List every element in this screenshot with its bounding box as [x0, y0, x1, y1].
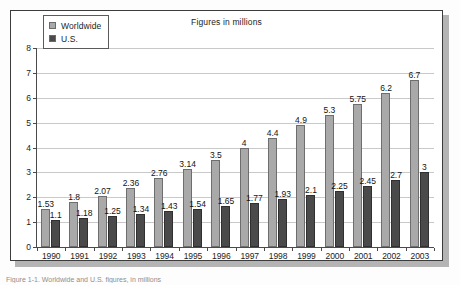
y-axis-tick-label: 2 [26, 192, 31, 202]
bar-us[interactable]: 1.1 [51, 220, 60, 247]
y-axis-tick-mark [33, 197, 36, 198]
bar-value-label: 2.36 [123, 178, 140, 188]
y-axis-tick-mark [33, 172, 36, 173]
bar-group: 4.41.93 [264, 48, 292, 247]
bar-value-label: 2.7 [390, 170, 402, 180]
y-axis-tick-mark [33, 48, 36, 49]
x-axis-tick-label: 1991 [65, 251, 93, 261]
bar-value-label: 3.5 [210, 150, 222, 160]
bar-value-label: 2.07 [94, 186, 111, 196]
bar-value-label: 3 [422, 162, 427, 172]
chart-legend: Worldwide U.S. [43, 15, 109, 49]
bar-group: 6.22.7 [377, 48, 405, 247]
bar-group: 2.361.34 [122, 48, 150, 247]
bar-group: 2.071.25 [94, 48, 122, 247]
bar-worldwide[interactable]: 1.53 [41, 209, 50, 247]
bar-group: 41.77 [236, 48, 264, 247]
y-axis-tick-label: 5 [26, 118, 31, 128]
bar-value-label: 2.45 [360, 176, 377, 186]
bar-group: 3.141.54 [179, 48, 207, 247]
x-axis-tick-label: 1996 [207, 251, 235, 261]
screenshot-canvas: Figures in millions Worldwide U.S. 87654… [0, 0, 460, 285]
bar-value-label: 1.1 [50, 210, 62, 220]
x-axis-tick-label: 1992 [94, 251, 122, 261]
bar-us[interactable]: 1.77 [250, 203, 259, 247]
y-axis-tick-label: 3 [26, 167, 31, 177]
bar-worldwide[interactable]: 6.2 [381, 93, 390, 247]
y-axis-tick-mark [33, 148, 36, 149]
x-axis-tick-mark [434, 248, 435, 251]
bar-us[interactable]: 1.65 [221, 206, 230, 247]
bar-value-label: 1.65 [218, 196, 235, 206]
bar-us[interactable]: 1.93 [278, 199, 287, 247]
y-axis-tick-label: 6 [26, 93, 31, 103]
bar-group: 1.81.18 [65, 48, 93, 247]
bar-value-label: 1.18 [76, 208, 93, 218]
bar-us[interactable]: 1.34 [136, 214, 145, 247]
bar-value-label: 1.34 [133, 204, 150, 214]
bar-worldwide[interactable]: 6.7 [410, 80, 419, 247]
bar-group: 6.73 [406, 48, 434, 247]
x-axis-tick-label: 1999 [292, 251, 320, 261]
bar-value-label: 3.14 [179, 159, 196, 169]
bar-value-label: 1.77 [246, 193, 263, 203]
bar-value-label: 1.54 [189, 199, 206, 209]
y-axis-tick-mark [33, 222, 36, 223]
bar-us[interactable]: 1.18 [79, 218, 88, 247]
bar-value-label: 2.1 [305, 185, 317, 195]
chart-figure-frame: Figures in millions Worldwide U.S. 87654… [10, 10, 443, 261]
bar-group: 5.32.25 [321, 48, 349, 247]
x-axis-tick-label: 2003 [406, 251, 434, 261]
x-axis-tick-label: 1995 [179, 251, 207, 261]
bar-value-label: 6.7 [408, 70, 420, 80]
bar-us[interactable]: 2.7 [391, 180, 400, 247]
legend-label-worldwide: Worldwide [61, 21, 101, 31]
bar-value-label: 1.53 [38, 199, 55, 209]
y-axis-tick-mark [33, 123, 36, 124]
bar-group: 5.752.45 [349, 48, 377, 247]
bar-us[interactable]: 1.43 [164, 211, 173, 247]
legend-item-worldwide[interactable]: Worldwide [49, 19, 101, 32]
bar-us[interactable]: 2.45 [363, 186, 372, 247]
bar-worldwide[interactable]: 2.07 [98, 196, 107, 247]
bar-value-label: 1.25 [104, 206, 121, 216]
legend-item-us[interactable]: U.S. [49, 32, 101, 45]
bar-value-label: 1.93 [274, 189, 291, 199]
bar-us[interactable]: 1.25 [108, 216, 117, 247]
bar-value-label: 4 [242, 138, 247, 148]
x-axis-tick-label: 1990 [37, 251, 65, 261]
y-axis-tick-mark [33, 73, 36, 74]
bar-worldwide[interactable]: 2.76 [154, 178, 163, 247]
bar-worldwide[interactable]: 2.36 [126, 188, 135, 247]
bar-worldwide[interactable]: 4.9 [296, 125, 305, 247]
bar-value-label: 5.75 [350, 94, 367, 104]
x-axis-tick-label: 1998 [264, 251, 292, 261]
x-axis-labels: 1990199119921993199419951996199719981999… [37, 251, 434, 261]
y-axis-tick-label: 1 [26, 217, 31, 227]
plot-area: 876543210 1.531.11.81.182.071.252.361.34… [36, 48, 434, 248]
bar-value-label: 2.25 [331, 181, 348, 191]
y-axis-tick-mark [33, 98, 36, 99]
bar-value-label: 4.9 [295, 115, 307, 125]
x-axis-tick-label: 1993 [122, 251, 150, 261]
bar-us[interactable]: 1.54 [193, 209, 202, 247]
bar-us[interactable]: 2.1 [306, 195, 315, 247]
bar-group: 1.531.1 [37, 48, 65, 247]
x-axis-tick-label: 1997 [236, 251, 264, 261]
x-axis-tick-label: 1994 [150, 251, 178, 261]
bar-value-label: 2.76 [151, 168, 168, 178]
bar-value-label: 1.43 [161, 201, 178, 211]
bar-value-label: 4.4 [267, 128, 279, 138]
legend-label-us: U.S. [61, 34, 78, 44]
figure-caption: Figure 1-1. Worldwide and U.S. figures, … [6, 276, 454, 283]
bar-us[interactable]: 2.25 [335, 191, 344, 247]
y-axis-tick-mark [33, 247, 36, 248]
x-axis-tick-label: 2001 [349, 251, 377, 261]
us-swatch-icon [49, 35, 56, 42]
worldwide-swatch-icon [49, 22, 56, 29]
y-axis-tick-label: 7 [26, 68, 31, 78]
bar-us[interactable]: 3 [420, 172, 429, 247]
bar-group: 4.92.1 [292, 48, 320, 247]
y-axis-tick-label: 4 [26, 143, 31, 153]
bar-group: 2.761.43 [150, 48, 178, 247]
